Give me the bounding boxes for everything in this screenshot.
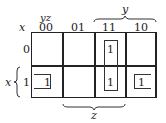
z-brace-label: z	[91, 110, 97, 121]
karnaugh-map-grid: 1 1 1 1	[31, 32, 157, 98]
cell-1-01	[63, 66, 94, 98]
y-brace-label: y	[122, 4, 128, 15]
group-column-11	[104, 40, 118, 91]
cell-0-01	[63, 33, 94, 65]
group-wraparound-left	[34, 74, 51, 89]
y-brace	[93, 16, 157, 24]
row-variable-label: x	[19, 22, 25, 33]
row-header-1: 1	[23, 77, 30, 88]
cell-0-00	[32, 33, 63, 65]
group-wraparound-right	[134, 74, 151, 89]
x-brace-label: x	[5, 77, 11, 88]
cell-0-10	[126, 33, 157, 65]
row-header-0: 0	[23, 44, 30, 55]
x-brace	[14, 66, 22, 98]
